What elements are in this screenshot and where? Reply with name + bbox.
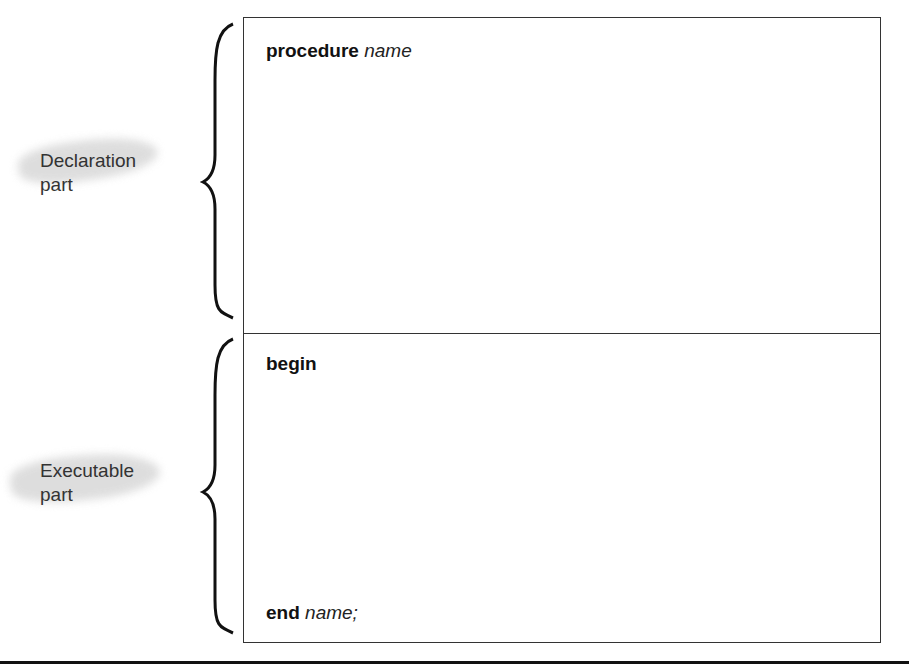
end-name: name; [305,602,358,623]
procedure-block [243,17,881,643]
bottom-rule [0,661,909,664]
section-divider [243,333,881,334]
executable-brace-icon [195,335,240,635]
executable-part-label: Executable part [40,459,134,507]
label-line: part [40,483,134,507]
end-line: end name; [266,602,358,624]
label-line: Executable [40,459,134,483]
begin-line: begin [266,353,317,375]
begin-keyword: begin [266,353,317,374]
end-keyword: end [266,602,300,623]
procedure-keyword: procedure [266,40,359,61]
declaration-brace-icon [195,20,240,320]
procedure-header: procedure name [266,40,412,62]
label-line: part [40,173,136,197]
label-line: Declaration [40,149,136,173]
declaration-part-label: Declaration part [40,149,136,197]
procedure-name: name [364,40,412,61]
